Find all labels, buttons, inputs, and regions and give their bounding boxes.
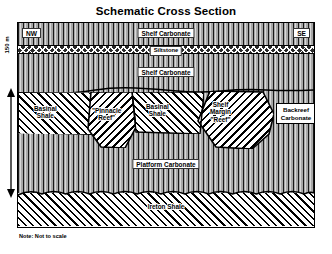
label-shelf-margin-reef: Shelf Margin "Reef": [210, 101, 231, 123]
label-shelf-carbonate-upper: Shelf Carbonate: [137, 28, 194, 38]
schematic-cross-section-figure: Schematic Cross Section NW: [0, 0, 332, 254]
label-line-2: Shale: [149, 110, 166, 117]
label-ireton-shale: Ireton Shale: [148, 203, 185, 210]
label-line-1: Basinal: [146, 103, 169, 110]
label-platform-carbonate: Platform Carbonate: [132, 159, 199, 169]
label-line-2: Shale: [37, 112, 54, 119]
label-line-2: Margin: [210, 108, 231, 115]
label-pinnacle-reef: "Pinnacle Reef": [92, 107, 121, 122]
figure-title: Schematic Cross Section: [0, 5, 332, 17]
vertical-scale-arrow: [4, 88, 18, 198]
label-line-1: "Pinnacle: [92, 107, 121, 114]
label-line-1: Shelf: [213, 101, 229, 108]
label-line-1: Backreef: [283, 106, 309, 113]
footnote-not-to-scale: Note: Not to scale: [19, 233, 67, 239]
label-basinal-shale-left: Basinal Shale: [34, 105, 57, 120]
label-shelf-carbonate-lower: Shelf Carbonate: [137, 67, 194, 77]
orientation-label-nw: NW: [22, 28, 41, 38]
cross-section-diagram: NW SE Shelf Carbonate Siltstone Shelf Ca…: [17, 22, 315, 228]
label-line-2: Carbonate: [281, 114, 312, 121]
orientation-label-se: SE: [293, 28, 310, 38]
label-line-1: Basinal: [34, 105, 57, 112]
label-backreef-carbonate: Backreef Carbonate: [276, 103, 315, 124]
label-siltstone: Siltstone: [150, 46, 182, 56]
label-line-3: "Reef": [211, 116, 231, 123]
scale-label: 150 m: [4, 25, 10, 65]
label-line-2: Reef": [98, 114, 115, 121]
label-basinal-shale-center: Basinal Shale: [146, 103, 169, 118]
